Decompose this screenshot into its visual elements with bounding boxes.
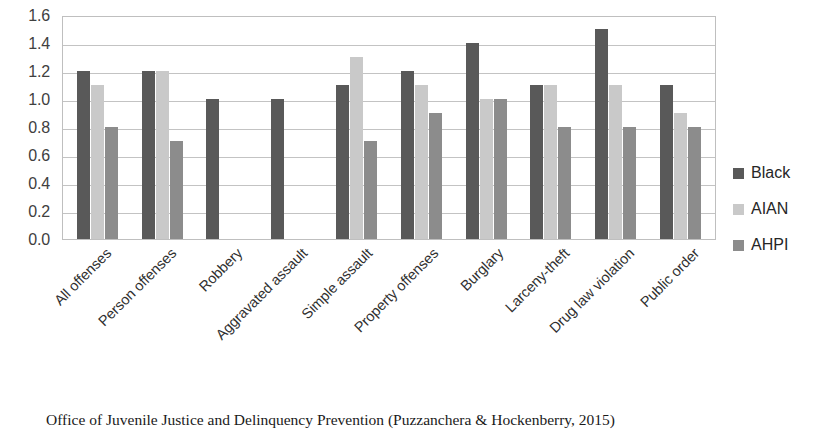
legend-item: Black: [733, 155, 817, 191]
bar: [105, 127, 118, 239]
x-axis-tick-label: Larceny-theft: [502, 245, 572, 315]
x-axis: All offensesPerson offensesRobberyAggrav…: [62, 241, 716, 351]
bar-group: [389, 17, 454, 239]
bar: [429, 113, 442, 239]
bar: [91, 85, 104, 239]
bar: [480, 99, 493, 239]
bar-group: [324, 17, 389, 239]
legend-label: AIAN: [751, 200, 788, 218]
bar: [350, 57, 363, 239]
bar: [156, 71, 169, 239]
bar-group: [583, 17, 648, 239]
bar: [415, 85, 428, 239]
legend-item: AHPI: [733, 227, 817, 263]
bar: [170, 141, 183, 239]
bar: [466, 43, 479, 239]
bar: [401, 71, 414, 239]
legend-item: AIAN: [733, 191, 817, 227]
bar-group: [519, 17, 584, 239]
bar: [609, 85, 622, 239]
bar: [595, 29, 608, 239]
bar: [142, 71, 155, 239]
x-axis-tick-label: Robbery: [195, 245, 245, 295]
bar-group: [259, 17, 324, 239]
bar: [336, 85, 349, 239]
bar: [558, 127, 571, 239]
y-axis-tick-label: 0.2: [28, 203, 50, 221]
y-axis-tick-label: 0.6: [28, 147, 50, 165]
bar: [494, 99, 507, 239]
y-axis-tick-label: 1.2: [28, 63, 50, 81]
x-axis-tick-label: Public order: [637, 245, 702, 310]
y-axis-tick-label: 1.4: [28, 35, 50, 53]
figure-caption: Office of Juvenile Justice and Delinquen…: [46, 411, 786, 429]
legend-label: Black: [751, 164, 790, 182]
y-axis: 1.61.41.21.00.80.60.40.20.0: [0, 16, 56, 240]
bar-group: [65, 17, 130, 239]
bar: [364, 141, 377, 239]
chart-page: 1.61.41.21.00.80.60.40.20.0 All offenses…: [0, 0, 822, 429]
legend-swatch-icon: [733, 204, 744, 215]
bar-group: [130, 17, 195, 239]
bar-group: [648, 17, 713, 239]
bar: [623, 127, 636, 239]
bar: [660, 85, 673, 239]
bar: [530, 85, 543, 239]
plot-area: [62, 16, 716, 240]
x-axis-tick-label: All offenses: [51, 245, 114, 308]
bar: [206, 99, 219, 239]
legend-label: AHPI: [751, 236, 788, 254]
bar: [674, 113, 687, 239]
y-axis-tick-label: 0.8: [28, 119, 50, 137]
bar: [688, 127, 701, 239]
legend-swatch-icon: [733, 240, 744, 251]
bar-groups-container: [63, 17, 715, 239]
bar-group: [454, 17, 519, 239]
y-axis-tick-label: 0.0: [28, 231, 50, 249]
bar: [271, 99, 284, 239]
y-axis-tick-label: 1.0: [28, 91, 50, 109]
bar-group: [195, 17, 260, 239]
y-axis-tick-label: 0.4: [28, 175, 50, 193]
bar: [544, 85, 557, 239]
y-axis-tick-label: 1.6: [28, 7, 50, 25]
chart-legend: BlackAIANAHPI: [733, 155, 817, 263]
legend-swatch-icon: [733, 168, 744, 179]
x-axis-tick-label: Burglary: [457, 245, 506, 294]
bar: [77, 71, 90, 239]
